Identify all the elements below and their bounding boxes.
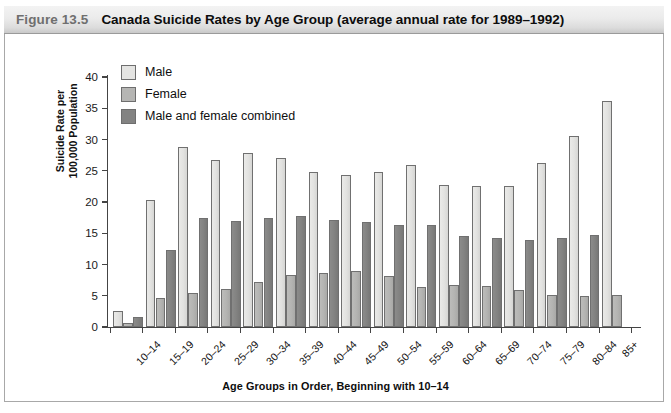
bar-female xyxy=(221,289,231,327)
bar-male xyxy=(243,153,253,327)
bar-both xyxy=(296,216,306,327)
bar-male xyxy=(537,163,547,327)
figure-page: Figure 13.5 Canada Suicide Rates by Age … xyxy=(0,0,671,413)
bar-male xyxy=(276,158,286,327)
bar-both xyxy=(459,236,469,327)
bar-group xyxy=(537,77,567,327)
y-tick-mark xyxy=(102,264,107,265)
bar-male xyxy=(178,147,188,327)
bar-group xyxy=(569,77,599,327)
y-tick-mark xyxy=(102,295,107,296)
bar-group xyxy=(374,77,404,327)
x-tick-mark xyxy=(370,328,371,333)
bar-female xyxy=(580,296,590,327)
y-tick-mark xyxy=(102,139,107,140)
y-tick-mark xyxy=(102,326,107,327)
legend: MaleFemaleMale and female combined xyxy=(121,62,295,128)
x-tick-mark xyxy=(599,328,600,333)
x-axis-title: Age Groups in Order, Beginning with 10–1… xyxy=(0,380,671,392)
bar-male xyxy=(211,160,221,328)
bar-both xyxy=(329,220,339,328)
bar-female xyxy=(514,290,524,328)
bar-male xyxy=(439,185,449,328)
bar-both xyxy=(362,222,372,327)
bar-male xyxy=(602,101,612,327)
figure-title: Canada Suicide Rates by Age Group (avera… xyxy=(101,12,564,27)
legend-label: Male and female combined xyxy=(145,109,295,123)
bar-both xyxy=(231,221,241,327)
bar-both xyxy=(492,238,502,327)
bar-female xyxy=(156,298,166,327)
bar-male xyxy=(569,136,579,327)
bar-female xyxy=(547,295,557,327)
page-artifact xyxy=(540,404,665,412)
bar-male xyxy=(146,200,156,328)
bar-female xyxy=(351,271,361,327)
bar-male xyxy=(113,311,123,327)
legend-swatch-icon xyxy=(121,87,136,102)
legend-swatch-icon xyxy=(121,65,136,80)
x-tick-mark xyxy=(436,328,437,333)
bar-both xyxy=(557,238,567,327)
legend-label: Female xyxy=(145,87,187,101)
bar-female xyxy=(123,323,133,327)
x-tick-mark xyxy=(110,328,111,333)
bar-female xyxy=(612,295,622,327)
x-tick-mark xyxy=(207,328,208,333)
bar-group xyxy=(504,77,534,327)
x-tick-mark xyxy=(338,328,339,333)
y-axis-title: Suicide Rate per 100,000 Population xyxy=(54,46,80,216)
x-tick-mark xyxy=(142,328,143,333)
figure-number: Figure 13.5 xyxy=(16,12,88,27)
bar-female xyxy=(254,282,264,327)
bar-both xyxy=(264,218,274,327)
x-tick-mark xyxy=(566,328,567,333)
x-tick-mark xyxy=(533,328,534,333)
legend-swatch-icon xyxy=(121,109,136,124)
bar-both xyxy=(199,218,209,327)
bar-female xyxy=(286,275,296,328)
x-tick-mark xyxy=(468,328,469,333)
bar-female xyxy=(319,273,329,327)
bar-both xyxy=(525,240,535,327)
y-tick-label: 0 xyxy=(72,321,98,333)
bar-both xyxy=(133,317,143,327)
bar-male xyxy=(309,172,319,327)
y-tick-label: 10 xyxy=(72,259,98,271)
bar-female xyxy=(417,287,427,327)
y-tick-label: 5 xyxy=(72,290,98,302)
x-axis-line xyxy=(107,327,641,328)
y-tick-mark xyxy=(102,108,107,109)
bar-female xyxy=(188,293,198,327)
y-tick-label: 15 xyxy=(72,227,98,239)
bar-group xyxy=(341,77,371,327)
legend-item: Male xyxy=(121,62,295,82)
bar-group xyxy=(472,77,502,327)
bar-female xyxy=(449,285,459,328)
x-tick-mark xyxy=(240,328,241,333)
x-tick-mark xyxy=(501,328,502,333)
x-tick-mark xyxy=(273,328,274,333)
y-tick-mark xyxy=(102,233,107,234)
legend-item: Male and female combined xyxy=(121,106,295,126)
bar-male xyxy=(341,175,351,328)
y-tick-mark xyxy=(102,201,107,202)
legend-item: Female xyxy=(121,84,295,104)
bar-both xyxy=(427,225,437,328)
bar-group xyxy=(602,77,632,327)
bar-male xyxy=(504,186,514,327)
bar-both xyxy=(166,250,176,328)
bar-group xyxy=(309,77,339,327)
bar-both xyxy=(394,225,404,327)
y-tick-mark xyxy=(102,76,107,77)
legend-label: Male xyxy=(145,65,172,79)
x-tick-mark xyxy=(305,328,306,333)
bar-group xyxy=(406,77,436,327)
figure-title-bar: Figure 13.5 Canada Suicide Rates by Age … xyxy=(4,6,664,34)
bar-female xyxy=(384,276,394,327)
bar-male xyxy=(374,172,384,327)
bar-male xyxy=(472,186,482,327)
bar-male xyxy=(406,165,416,328)
x-tick-mark xyxy=(175,328,176,333)
y-tick-mark xyxy=(102,170,107,171)
